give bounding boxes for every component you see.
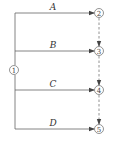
svg-text:D: D — [48, 118, 56, 128]
activity-b: B — [15, 40, 94, 51]
node-1: 1 — [10, 66, 19, 75]
activity-c: C — [15, 79, 94, 90]
svg-text:1: 1 — [12, 67, 16, 75]
network-diagram: 1 A B C D 2 3 4 5 — [0, 0, 114, 144]
node-2: 2 — [95, 9, 104, 18]
svg-text:4: 4 — [97, 87, 102, 95]
node-5: 5 — [95, 125, 104, 134]
svg-text:B: B — [49, 40, 57, 50]
svg-text:A: A — [49, 2, 57, 12]
activity-a: A — [15, 2, 94, 13]
node-3: 3 — [95, 47, 104, 56]
node-4: 4 — [95, 86, 104, 95]
activity-d: D — [15, 118, 94, 129]
svg-text:2: 2 — [97, 10, 101, 18]
svg-text:5: 5 — [97, 126, 101, 134]
svg-text:3: 3 — [97, 48, 101, 56]
svg-text:C: C — [50, 79, 57, 89]
